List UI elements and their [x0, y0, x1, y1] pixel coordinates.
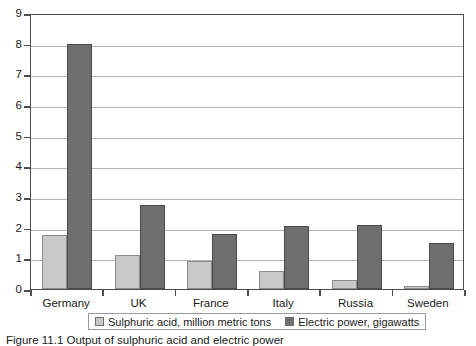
x-tick-label-italy: Italy: [247, 297, 319, 310]
x-tick-label-sweden: Sweden: [392, 297, 464, 310]
legend-entry-1: Electric power, gigawatts: [285, 316, 419, 328]
x-tick-mark: [30, 290, 32, 296]
bar: [140, 205, 165, 289]
bar: [187, 261, 212, 289]
legend-swatch-icon: [95, 317, 104, 326]
y-tick-label: 6: [4, 100, 22, 112]
gridline: [31, 199, 463, 200]
bar: [67, 44, 92, 289]
y-tick-label: 2: [4, 223, 22, 235]
bar: [332, 280, 357, 289]
gridline: [31, 168, 463, 169]
bar: [259, 271, 284, 289]
y-tick-label: 4: [4, 161, 22, 173]
y-tick-label: 5: [4, 131, 22, 143]
y-tick-label: 9: [4, 8, 22, 20]
y-tick-label: 0: [4, 284, 22, 296]
x-tick-label-germany: Germany: [30, 297, 102, 310]
x-tick-mark: [102, 290, 104, 296]
x-axis: GermanyUKFranceItalyRussiaSweden: [30, 290, 464, 314]
y-tick-label: 8: [4, 39, 22, 51]
x-tick-mark: [319, 290, 321, 296]
x-tick-mark: [175, 290, 177, 296]
bar: [212, 234, 237, 289]
gridline: [31, 107, 463, 108]
chart-legend: Sulphuric acid, million metric tonsElect…: [88, 313, 426, 330]
x-tick-mark: [464, 290, 466, 296]
bar: [429, 243, 454, 289]
bar: [284, 226, 309, 289]
bar: [357, 225, 382, 289]
gridline: [31, 46, 463, 47]
bar: [404, 286, 429, 289]
gridline: [31, 230, 463, 231]
x-tick-label-russia: Russia: [319, 297, 391, 310]
legend-entry-0: Sulphuric acid, million metric tons: [95, 316, 271, 328]
gridline: [31, 138, 463, 139]
x-tick-label-uk: UK: [102, 297, 174, 310]
bar: [42, 235, 67, 289]
legend-label: Electric power, gigawatts: [298, 316, 419, 328]
figure-caption: Figure 11.1 Output of sulphuric acid and…: [6, 334, 284, 346]
legend-swatch-icon: [285, 317, 294, 326]
y-tick-label: 7: [4, 69, 22, 81]
x-tick-mark: [247, 290, 249, 296]
x-tick-mark: [392, 290, 394, 296]
gridline: [31, 76, 463, 77]
y-tick-label: 1: [4, 253, 22, 265]
x-tick-label-france: France: [175, 297, 247, 310]
legend-label: Sulphuric acid, million metric tons: [108, 316, 271, 328]
gridline: [31, 260, 463, 261]
y-tick-label: 3: [4, 192, 22, 204]
bar: [115, 255, 140, 289]
plot-area: [30, 14, 464, 290]
